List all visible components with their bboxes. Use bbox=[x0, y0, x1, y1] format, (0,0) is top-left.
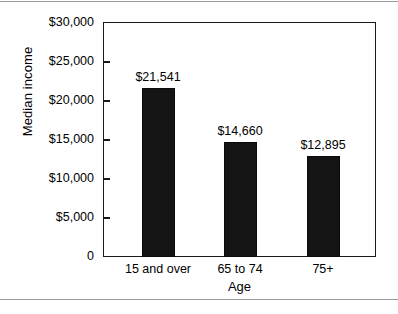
bar-value-label: $21,541 bbox=[108, 71, 208, 84]
bar-value-label: $14,660 bbox=[190, 125, 290, 138]
bar-75-plus[interactable] bbox=[307, 156, 340, 257]
bar-15-and-over[interactable] bbox=[142, 88, 175, 257]
bar-value-label: $12,895 bbox=[273, 139, 373, 152]
bar-65-to-74[interactable] bbox=[224, 142, 257, 257]
x-tick-label-75-plus: 75+ bbox=[273, 262, 373, 276]
x-axis-title: Age bbox=[103, 279, 376, 294]
bar-chart-figure: Median income $30,000 $25,000 $20,000 $1… bbox=[0, 0, 398, 314]
